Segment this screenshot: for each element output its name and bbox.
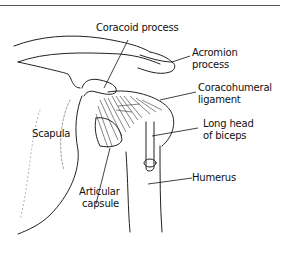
label-biceps-line2: of biceps	[203, 130, 246, 142]
label-coracohumeral-line1: Coracohumeral	[198, 82, 272, 94]
label-scapula: Scapula	[32, 128, 70, 140]
leader-humerus	[148, 178, 192, 184]
label-capsule-line2: capsule	[82, 198, 119, 210]
label-biceps-line1: Long head	[203, 118, 254, 130]
label-coracoid-process: Coracoid process	[96, 22, 179, 34]
label-coracohumeral-line2: ligament	[198, 94, 241, 106]
label-capsule-line1: Articular	[79, 186, 120, 198]
label-acromion-line2: process	[192, 59, 229, 71]
label-humerus: Humerus	[192, 172, 236, 184]
leader-acromion	[172, 56, 190, 62]
leader-biceps	[152, 128, 198, 136]
leader-coracohumeral	[160, 92, 196, 100]
shoulder-anatomy-diagram: Coracoid process Acromion process Coraco…	[0, 0, 284, 255]
leader-coracoid	[104, 40, 128, 88]
label-acromion-line1: Acromion	[192, 47, 238, 59]
